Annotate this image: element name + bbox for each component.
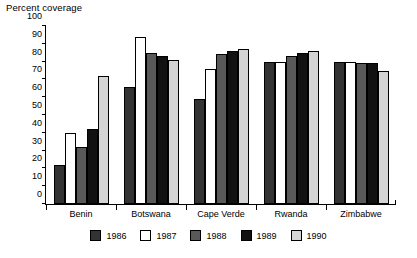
y-axis-tick-label: 100 xyxy=(2,11,46,21)
bar[interactable] xyxy=(227,51,238,204)
bar-group: Zimbabwe xyxy=(326,26,396,204)
bar[interactable] xyxy=(238,49,249,204)
y-axis-tick-label: 60 xyxy=(2,82,46,92)
plot-area: 1009080706050403020100 BeninBotswanaCape… xyxy=(45,26,396,205)
bar-chart: Percent coverage 1009080706050403020100 … xyxy=(0,0,417,258)
bar[interactable] xyxy=(334,62,345,204)
bar-group: Botswana xyxy=(116,26,186,204)
y-axis-tick-label: 80 xyxy=(2,47,46,57)
legend-label: 1990 xyxy=(307,231,327,241)
x-axis-group-tick xyxy=(326,205,327,210)
x-axis-group-tick xyxy=(256,205,257,210)
legend-label: 1989 xyxy=(257,231,277,241)
bar[interactable] xyxy=(264,62,275,204)
y-axis-tick-label: 40 xyxy=(2,118,46,128)
bar-group: Rwanda xyxy=(256,26,326,204)
x-axis-category-label: Benin xyxy=(69,209,92,219)
bar[interactable] xyxy=(168,60,179,204)
legend-label: 1986 xyxy=(106,231,126,241)
bar[interactable] xyxy=(308,51,319,204)
bar[interactable] xyxy=(205,69,216,204)
legend-swatch-icon xyxy=(291,230,302,241)
bar[interactable] xyxy=(286,56,297,204)
legend-label: 1988 xyxy=(206,231,226,241)
bar[interactable] xyxy=(378,71,389,205)
y-axis-tick-label: 50 xyxy=(2,100,46,110)
x-axis-group-tick xyxy=(116,205,117,210)
bar[interactable] xyxy=(146,53,157,204)
bar[interactable] xyxy=(76,147,87,204)
bar-group: Cape Verde xyxy=(186,26,256,204)
bar[interactable] xyxy=(157,56,168,204)
x-axis-category-label: Cape Verde xyxy=(197,209,245,219)
legend-swatch-icon xyxy=(190,230,201,241)
y-axis-tick-label: 0 xyxy=(2,189,46,199)
bar[interactable] xyxy=(297,53,308,204)
legend-item-1990[interactable]: 1990 xyxy=(291,230,327,241)
bar[interactable] xyxy=(54,165,65,204)
bar[interactable] xyxy=(124,87,135,204)
bar[interactable] xyxy=(367,63,378,204)
y-axis-tick-label: 10 xyxy=(2,171,46,181)
bar[interactable] xyxy=(98,76,109,204)
legend-swatch-icon xyxy=(140,230,151,241)
bar[interactable] xyxy=(65,133,76,204)
legend-swatch-icon xyxy=(241,230,252,241)
x-axis-category-label: Botswana xyxy=(131,209,171,219)
legend-item-1988[interactable]: 1988 xyxy=(190,230,226,241)
bar[interactable] xyxy=(356,63,367,204)
legend-swatch-icon xyxy=(90,230,101,241)
legend-label: 1987 xyxy=(156,231,176,241)
legend-item-1987[interactable]: 1987 xyxy=(140,230,176,241)
legend-item-1989[interactable]: 1989 xyxy=(241,230,277,241)
x-axis-category-label: Zimbabwe xyxy=(340,209,382,219)
chart-legend: 19861987198819891990 xyxy=(0,230,417,241)
legend-item-1986[interactable]: 1986 xyxy=(90,230,126,241)
x-axis-group-tick xyxy=(46,205,47,210)
x-axis-category-label: Rwanda xyxy=(274,209,307,219)
bars-layer: BeninBotswanaCape VerdeRwandaZimbabwe xyxy=(46,26,396,204)
bar[interactable] xyxy=(194,99,205,204)
bar[interactable] xyxy=(135,37,146,204)
bar-group: Benin xyxy=(46,26,116,204)
x-axis-end-tick xyxy=(395,200,396,205)
y-axis-tick-label: 90 xyxy=(2,29,46,39)
y-axis-tick-label: 20 xyxy=(2,153,46,163)
bar[interactable] xyxy=(87,129,98,204)
bar[interactable] xyxy=(216,54,227,204)
x-axis-group-tick xyxy=(186,205,187,210)
bar[interactable] xyxy=(275,62,286,204)
y-axis-tick-label: 30 xyxy=(2,136,46,146)
y-axis-tick-label: 70 xyxy=(2,64,46,74)
bar[interactable] xyxy=(345,62,356,204)
